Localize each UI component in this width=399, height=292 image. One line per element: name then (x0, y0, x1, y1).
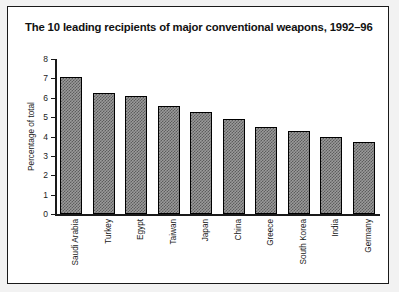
y-tick-label: 1 (43, 190, 48, 199)
x-tick-label: Germany (364, 219, 373, 253)
bar-slot (153, 59, 186, 214)
y-tick-label: 0 (43, 210, 48, 219)
x-tick-label: Turkey (104, 219, 113, 244)
x-tick-label-wrap: Germany (364, 185, 373, 219)
y-tick-label: 8 (43, 55, 48, 64)
bar-slot (88, 59, 121, 214)
chart-title: The 10 leading recipients of major conve… (25, 21, 375, 33)
x-tick-label-wrap: Egypt (136, 198, 145, 219)
bar[interactable] (125, 96, 147, 214)
x-tick-label: Egypt (136, 219, 145, 240)
x-tick-label: Greece (266, 219, 275, 246)
x-tick-label: Saudi Arabia (71, 219, 80, 265)
bar-slot (120, 59, 153, 214)
x-tick-label: China (234, 219, 243, 240)
bar-slot (218, 59, 251, 214)
y-tick-label: 2 (43, 171, 48, 180)
y-tick-label: 7 (43, 74, 48, 83)
x-tick-label-wrap: Japan (201, 197, 210, 219)
x-tick-label-wrap: India (331, 201, 340, 219)
bar-slot (250, 59, 283, 214)
y-tick-mark (51, 214, 55, 215)
x-tick-label: India (331, 219, 340, 237)
x-tick-label-wrap: Taiwan (169, 194, 178, 220)
y-axis-title: Percentage of total (26, 59, 38, 214)
y-tick-label: 3 (43, 152, 48, 161)
x-tick-label: South Korea (299, 219, 308, 265)
plot-area: 012345678 Saudi ArabiaTurkeyEgyptTaiwanJ… (55, 59, 380, 214)
bar-slot (315, 59, 348, 214)
x-tick-label-wrap: Turkey (104, 194, 113, 219)
x-tick-label-wrap: South Korea (299, 173, 308, 219)
x-tick-label: Japan (201, 219, 210, 241)
bars-layer (55, 59, 380, 214)
figure-page: The 10 leading recipients of major conve… (0, 0, 399, 292)
x-tick-label-wrap: Greece (266, 192, 275, 219)
x-tick-label-wrap: China (234, 198, 243, 219)
x-tick-label: Taiwan (169, 219, 178, 245)
y-tick-label: 4 (43, 132, 48, 141)
y-tick-label: 5 (43, 113, 48, 122)
x-tick-label-wrap: Saudi Arabia (71, 173, 80, 219)
bar-slot (185, 59, 218, 214)
y-tick-label: 6 (43, 94, 48, 103)
figure-frame: The 10 leading recipients of major conve… (7, 6, 389, 284)
